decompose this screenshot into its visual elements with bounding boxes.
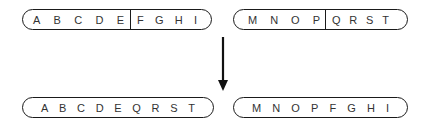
- gene-label: B: [59, 102, 66, 114]
- gene-label: O: [291, 102, 300, 114]
- recombinant-segment: M N O P F G H I: [234, 98, 407, 117]
- gene-label: S: [170, 102, 177, 114]
- chromosome-2-after: M N O P F G H I: [233, 97, 408, 118]
- gene-label: P: [311, 102, 318, 114]
- gene-label: E: [114, 102, 121, 114]
- gene-label: R: [152, 102, 160, 114]
- gene-label: D: [96, 102, 104, 114]
- gene-label: N: [272, 102, 280, 114]
- recombinant-segment: A B C D E Q R S T: [23, 98, 213, 117]
- gene-label: F: [329, 102, 336, 114]
- gene-label: A: [41, 102, 48, 114]
- gene-label: M: [252, 102, 261, 114]
- gene-label: C: [77, 102, 85, 114]
- gene-label: I: [386, 102, 389, 114]
- gene-label: Q: [132, 102, 141, 114]
- gene-label: H: [367, 102, 375, 114]
- chromosome-1-after: A B C D E Q R S T: [22, 97, 214, 118]
- gene-label: G: [347, 102, 356, 114]
- gene-label: T: [188, 102, 195, 114]
